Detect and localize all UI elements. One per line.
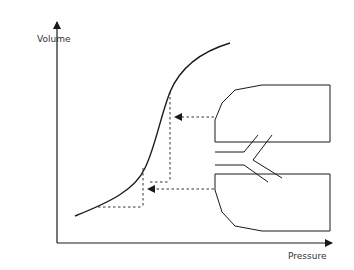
airway-lower-branch-inner — [253, 160, 282, 178]
lower-arrow-head — [147, 185, 155, 193]
airway-upper-branch — [215, 135, 258, 152]
airway-upper-branch-inner — [253, 135, 272, 160]
lower-projection — [98, 168, 214, 207]
lower-lung-region — [215, 174, 330, 231]
upper-arrow-head — [174, 113, 182, 121]
y-axis-label: Volume — [37, 34, 70, 44]
axes — [57, 22, 332, 243]
x-axis-label: Pressure — [288, 251, 326, 261]
upper-lung-region — [215, 85, 330, 142]
upper-projection — [150, 92, 214, 182]
lung-schematic — [215, 85, 330, 231]
